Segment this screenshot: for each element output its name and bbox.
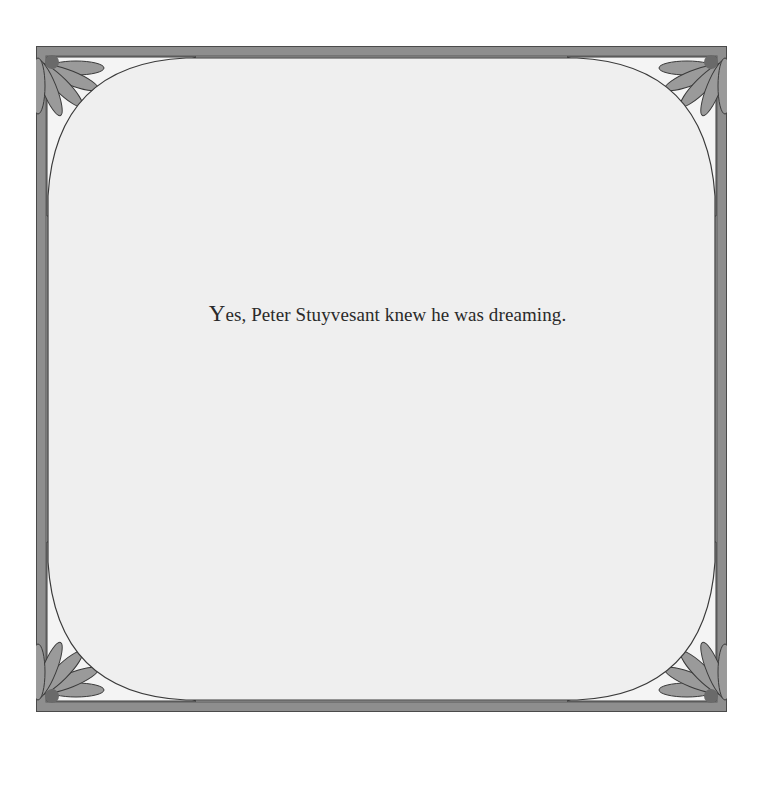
- drop-initial: Y: [209, 301, 226, 326]
- frame-artwork: [36, 46, 727, 712]
- page-panel: [48, 58, 715, 700]
- story-text: Yes, Peter Stuyvesant knew he was dreami…: [0, 301, 775, 327]
- decorative-frame: [36, 46, 727, 712]
- story-text-body: es, Peter Stuyvesant knew he was dreamin…: [225, 304, 566, 325]
